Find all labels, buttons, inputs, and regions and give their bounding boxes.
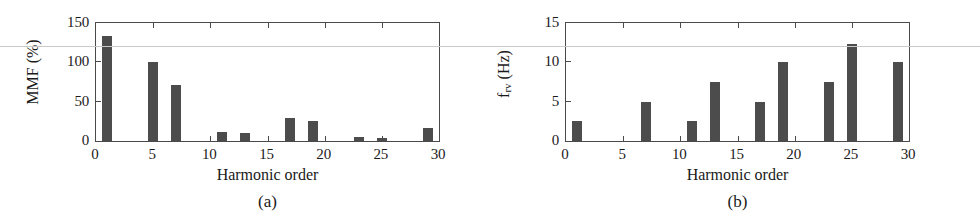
x-tick-label: 30	[888, 147, 928, 162]
x-tick-mark	[153, 136, 154, 141]
x-tick-mark-top	[623, 23, 624, 28]
x-tick-mark	[795, 136, 796, 141]
x-axis-title-a: Harmonic order	[95, 166, 440, 184]
x-tick-mark-top	[852, 23, 853, 28]
y-axis-title-b: frv (Hz)	[495, 19, 513, 129]
y-axis-title-b-unit: (Hz)	[495, 50, 512, 83]
x-tick-label: 20	[304, 147, 344, 162]
bar	[847, 44, 857, 141]
bar	[217, 132, 227, 141]
x-tick-mark-top	[382, 23, 383, 28]
x-tick-mark-top	[680, 23, 681, 28]
x-tick-label: 0	[545, 147, 585, 162]
y-tick-label: 15	[517, 15, 559, 30]
plot-area-a	[95, 22, 440, 142]
y-axis-title-b-subscript: rv	[501, 83, 513, 92]
bar-series-b	[566, 23, 909, 141]
y-tick-mark	[566, 101, 571, 102]
y-axis-title-a: MMF (%)	[24, 17, 42, 127]
y-tick-mark	[96, 22, 101, 23]
y-tick-label: 150	[47, 15, 89, 30]
x-tick-label: 10	[659, 147, 699, 162]
x-tick-mark	[852, 136, 853, 141]
bar	[308, 121, 318, 141]
bar	[102, 36, 112, 141]
y-tick-label: 50	[47, 94, 89, 109]
x-tick-label: 25	[361, 147, 401, 162]
chart-panel-a: 050100150051015202530 MMF (%) Harmonic o…	[0, 0, 490, 223]
y-tick-label: 100	[47, 54, 89, 69]
x-tick-mark-top	[325, 23, 326, 28]
y-tick-label: 0	[517, 133, 559, 148]
x-tick-mark-top	[738, 23, 739, 28]
panel-caption-a: (a)	[95, 192, 440, 212]
x-tick-mark	[680, 136, 681, 141]
bar	[710, 82, 720, 141]
x-tick-mark-top	[795, 23, 796, 28]
x-tick-label: 20	[774, 147, 814, 162]
x-tick-mark	[623, 136, 624, 141]
chart-panel-b: 051015051015202530 frv (Hz) Harmonic ord…	[490, 0, 980, 223]
plot-area-b	[565, 22, 910, 142]
y-tick-label: 10	[517, 54, 559, 69]
y-tick-label: 0	[47, 133, 89, 148]
y-tick-label: 5	[517, 94, 559, 109]
bar	[893, 62, 903, 141]
bar	[778, 62, 788, 141]
bar-series-a	[96, 23, 439, 141]
y-tick-mark	[566, 61, 571, 62]
x-tick-mark	[738, 136, 739, 141]
panel-caption-b: (b)	[565, 192, 910, 212]
x-tick-label: 5	[132, 147, 172, 162]
figure-root: 050100150051015202530 MMF (%) Harmonic o…	[0, 0, 980, 223]
x-tick-mark	[268, 136, 269, 141]
bar	[423, 128, 433, 141]
bar	[641, 102, 651, 141]
x-tick-label: 15	[247, 147, 287, 162]
bar	[824, 82, 834, 141]
x-tick-label: 10	[189, 147, 229, 162]
x-axis-title-b: Harmonic order	[565, 166, 910, 184]
x-tick-mark-top	[210, 23, 211, 28]
bar	[572, 121, 582, 141]
bar	[285, 118, 295, 141]
bar	[171, 85, 181, 141]
x-tick-label: 5	[602, 147, 642, 162]
bar	[148, 62, 158, 141]
x-tick-label: 25	[831, 147, 871, 162]
y-axis-title-b-main: f	[495, 93, 512, 98]
bar	[755, 102, 765, 141]
x-tick-label: 0	[75, 147, 115, 162]
bar	[354, 137, 364, 141]
y-tick-mark	[566, 22, 571, 23]
x-tick-mark	[325, 136, 326, 141]
y-tick-mark	[96, 61, 101, 62]
x-tick-mark-top	[153, 23, 154, 28]
y-tick-mark	[96, 101, 101, 102]
x-tick-label: 15	[717, 147, 757, 162]
x-tick-label: 30	[418, 147, 458, 162]
x-tick-mark	[210, 136, 211, 141]
bar	[240, 133, 250, 141]
x-tick-mark	[382, 136, 383, 141]
x-tick-mark-top	[268, 23, 269, 28]
bar	[687, 121, 697, 141]
